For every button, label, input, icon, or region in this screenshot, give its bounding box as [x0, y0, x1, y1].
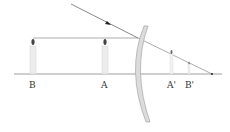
label-b-prime: B' [185, 80, 194, 90]
image-b-prime [188, 62, 190, 74]
diagram-canvas [0, 0, 230, 132]
candle-a [102, 39, 108, 74]
incident-ray [71, 4, 138, 38]
label-a: A [101, 80, 108, 90]
label-b: B [29, 80, 36, 90]
focal-point [211, 73, 213, 75]
label-a-prime: A' [167, 80, 176, 90]
candle-b [30, 39, 36, 74]
refracted-ray [138, 38, 212, 74]
